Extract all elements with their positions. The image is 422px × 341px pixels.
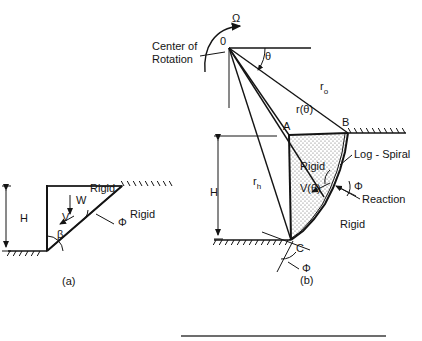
label-theta-b: θ (265, 50, 271, 62)
panel-b: Ω Center of Rotation 0 θ ro r(θ) rh A B … (152, 12, 410, 286)
ground-hatching-top-a (121, 181, 172, 186)
phi-leader-at-c (288, 262, 299, 269)
label-height-a: H (20, 212, 28, 224)
radius-to-a-line (229, 48, 289, 135)
slope-stability-figure: H W V β Φ Rigid Rigid (a) (0, 0, 422, 341)
center-of-rotation-leader (200, 52, 225, 56)
label-velocity-b: V(θ) (300, 182, 321, 194)
caption-panel-a: (a) (62, 275, 75, 287)
caption-panel-b: (b) (300, 274, 313, 286)
phi-arc-at-c (281, 252, 296, 259)
label-phi-a: Φ (118, 216, 127, 228)
label-rigid-upper-a: Rigid (90, 182, 115, 194)
phi-leader-a (96, 214, 114, 224)
label-center-rotation-line2: Rotation (152, 53, 193, 65)
label-reaction: Reaction (362, 193, 405, 205)
label-phi-bottom-b: Φ (302, 262, 311, 274)
label-point-a: A (283, 120, 291, 132)
label-point-b: B (342, 116, 349, 128)
label-r0-b: ro (320, 80, 329, 96)
radius-rh-line (229, 48, 291, 240)
label-rh-b: rh (253, 175, 261, 191)
label-rigid-outer-b: Rigid (340, 218, 365, 230)
label-beta-a: β (57, 228, 63, 240)
label-rtheta-b: r(θ) (296, 103, 313, 115)
label-origin-b: 0 (220, 35, 226, 47)
figure-container: H W V β Φ Rigid Rigid (a) (0, 0, 422, 341)
label-phi-right-b: Φ (354, 180, 363, 192)
label-log-spiral: Log - Spiral (354, 148, 410, 160)
label-point-c: C (296, 242, 304, 254)
label-rigid-inner-b: Rigid (300, 160, 325, 172)
label-height-b: H (210, 186, 218, 198)
radius-rtheta-line (229, 48, 324, 197)
label-omega-b: Ω (232, 12, 240, 24)
label-velocity-a: V (62, 211, 70, 223)
label-rigid-lower-a: Rigid (130, 208, 155, 220)
panel-a: H W V β Φ Rigid Rigid (a) (2, 181, 172, 287)
label-weight-a: W (76, 194, 87, 206)
label-center-rotation-line1: Center of (152, 40, 198, 52)
ground-hatching-base-a (7, 251, 40, 256)
theta-angle-arc (258, 48, 265, 70)
